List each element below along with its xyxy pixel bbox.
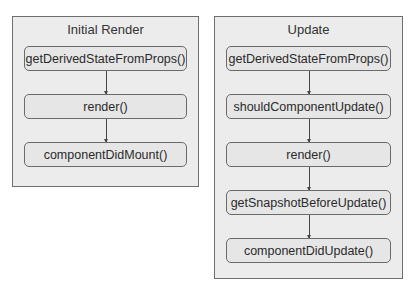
arrow-icon <box>106 71 107 94</box>
initial-render-panel: Initial Render getDerivedStateFromProps(… <box>12 16 199 187</box>
step-component-did-update: componentDidUpdate() <box>226 238 391 263</box>
step-get-derived-state-from-props: getDerivedStateFromProps() <box>226 46 391 71</box>
update-panel: Update getDerivedStateFromProps() should… <box>214 16 403 279</box>
arrow-icon <box>309 215 310 238</box>
step-should-component-update: shouldComponentUpdate() <box>226 94 391 119</box>
step-component-did-mount: componentDidMount() <box>24 142 187 167</box>
arrow-icon <box>106 119 107 142</box>
arrow-icon <box>309 71 310 94</box>
arrow-icon <box>309 167 310 190</box>
step-get-snapshot-before-update: getSnapshotBeforeUpdate() <box>226 190 391 215</box>
step-get-derived-state-from-props: getDerivedStateFromProps() <box>24 46 187 71</box>
panel-title: Update <box>215 22 402 37</box>
step-render: render() <box>226 142 391 167</box>
panel-title: Initial Render <box>13 22 198 37</box>
step-render: render() <box>24 94 187 119</box>
arrow-icon <box>309 119 310 142</box>
